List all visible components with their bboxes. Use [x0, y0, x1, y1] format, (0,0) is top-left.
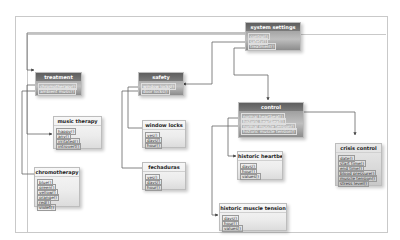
box-title: treatment [36, 73, 81, 81]
box-crisis-control[interactable]: crisis control date() start time() end t… [335, 143, 382, 186]
box-system-settings[interactable]: system settings control() safety() treat… [245, 22, 301, 51]
box-chromotherapy[interactable]: chromotherapy blue() green() yellow() or… [34, 167, 80, 207]
method-item: historic muscle tension() [241, 128, 297, 135]
box-control[interactable]: control normal heartbeat() historic hear… [238, 102, 304, 138]
box-safety[interactable]: safety window locks() door locks() [138, 72, 184, 96]
box-title: historic muscle tension [220, 204, 286, 213]
method-item: introvert() [56, 143, 81, 150]
box-title: historic heartbeat [238, 152, 282, 161]
box-title: system settings [246, 23, 300, 31]
box-title: music therapy [54, 117, 101, 126]
box-fechaduras[interactable]: fechaduras yes() days() hour() [142, 162, 186, 190]
method-item: treatment() [248, 43, 276, 50]
box-title: fechaduras [143, 163, 185, 172]
box-title: crisis control [336, 144, 381, 153]
method-item: values() [222, 225, 243, 232]
box-historic-heartbeat[interactable]: historic heartbeat days() hour() values(… [237, 151, 283, 180]
box-historic-muscle-tension[interactable]: historic muscle tension days() hour() va… [219, 203, 287, 231]
box-title: window locks [143, 121, 185, 130]
method-item: hour() [145, 184, 162, 191]
method-item: ambient music() [38, 88, 76, 95]
method-item: door locks() [141, 88, 170, 95]
box-title: chromotherapy [35, 168, 79, 177]
method-item: values() [240, 173, 261, 180]
method-item: stress level() [338, 180, 369, 187]
box-treatment[interactable]: treatment chromotherapy() ambient music(… [35, 72, 82, 96]
box-title: control [239, 103, 303, 111]
box-music-therapy[interactable]: music therapy happy() any() irritated() … [53, 116, 102, 149]
method-item: hour() [145, 142, 162, 149]
method-item: violet() [37, 204, 56, 211]
box-title: safety [139, 73, 183, 81]
box-window-locks[interactable]: window locks yes() days() hour() [142, 120, 186, 148]
